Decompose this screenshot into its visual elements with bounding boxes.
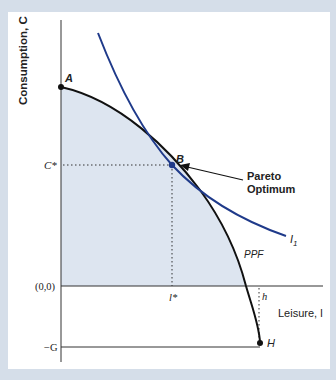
y-axis-label: Consumption, C: [17, 16, 29, 105]
l-star-label: l*: [169, 292, 178, 303]
origin-label: (0,0): [35, 281, 56, 293]
annotation-line2: Optimum: [247, 183, 295, 195]
pareto-arrow: [183, 166, 243, 180]
point-a-label: A: [64, 72, 73, 84]
point-b-label: B: [176, 153, 184, 165]
x-axis-label: Leisure, l: [278, 307, 323, 319]
point-a-marker: [58, 84, 64, 90]
point-h-label: H: [267, 337, 275, 349]
point-h-marker: [257, 340, 263, 346]
pareto-optimum-diagram: Consumption, C A B H C* (0,0) −G l* h Le…: [0, 0, 336, 380]
annotation-line1: Pareto: [247, 170, 282, 182]
point-b-marker: [169, 162, 175, 168]
neg-g-label: −G: [44, 342, 58, 353]
ppf-label: PPF: [244, 249, 264, 260]
indifference-label: I1: [290, 233, 298, 248]
feasible-region: [61, 87, 246, 286]
c-star-label: C*: [44, 159, 57, 171]
h-label: h: [262, 291, 267, 302]
